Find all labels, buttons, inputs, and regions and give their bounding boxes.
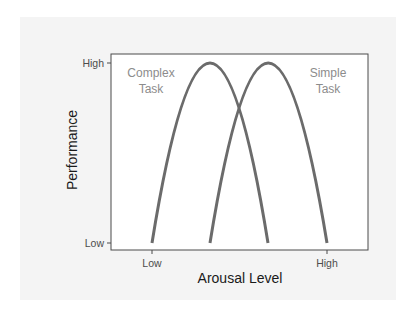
y-tick-label-low: Low: [85, 237, 105, 249]
y-axis-title: Performance: [64, 110, 80, 190]
x-tick-label-low: Low: [142, 257, 162, 269]
x-tick-label-high: High: [316, 257, 338, 269]
y-tick-label-high: High: [82, 57, 104, 69]
complex-task-label-line2: Task: [139, 82, 165, 96]
complex-task-label-line1: Complex: [127, 66, 174, 80]
x-axis-title: Arousal Level: [198, 270, 283, 286]
simple-task-label-line1: Simple: [310, 66, 347, 80]
simple-task-label-line2: Task: [316, 82, 342, 96]
yerkes-dodson-chart: High Low Performance Low High Arousal Le…: [0, 0, 420, 333]
